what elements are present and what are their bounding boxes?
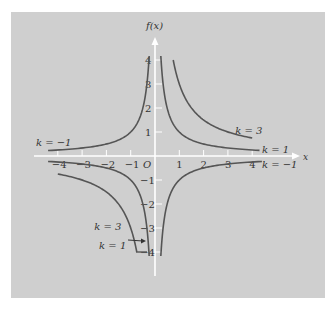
curve-kneg1-right	[161, 161, 262, 256]
k1-pointer-arrow	[128, 240, 143, 241]
hyperbola-chart: −4−3−2−112344321−1−2−3−4 f(x) x O k = −1…	[0, 0, 333, 311]
curve-label: k = −1	[262, 159, 298, 170]
x-tick-label: 4	[249, 159, 255, 170]
curve-label: k = −1	[36, 137, 72, 148]
y-axis-label: f(x)	[145, 20, 163, 31]
x-axis-label: x	[303, 152, 308, 162]
axes	[34, 37, 300, 276]
y-tick-label: −1	[140, 175, 155, 186]
y-axis-arrow-icon	[152, 37, 159, 45]
k1-pointer-arrowhead-icon	[141, 239, 146, 244]
x-tick-label: 1	[176, 159, 182, 170]
curve-label: k = 3	[235, 125, 262, 136]
curve-label: k = 1	[99, 240, 126, 251]
x-tick-label: −4	[52, 159, 67, 170]
y-tick-label: 2	[145, 103, 151, 114]
origin-label: O	[143, 159, 151, 170]
curve-label: k = 1	[262, 144, 289, 155]
y-tick-label: 1	[145, 127, 151, 138]
x-tick-label: −1	[125, 159, 140, 170]
curve-annotations: k = −1k = 3k = 1k = −1k = 3k = 1	[36, 125, 298, 251]
curve-label: k = 3	[94, 221, 121, 232]
